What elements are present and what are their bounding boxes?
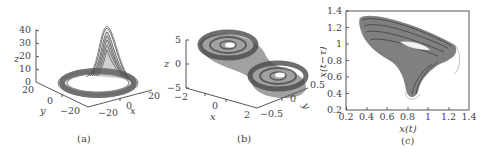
- y-label-a: y: [39, 105, 46, 116]
- caption-b: (b): [237, 133, 251, 144]
- panel-c: 1.4 1.2 1 0.8 0.6 0.4 0.2 0.2 0.4 0.6 0.…: [320, 0, 485, 157]
- svg-text:0.8: 0.8: [327, 55, 342, 66]
- svg-text:0.4: 0.4: [359, 111, 374, 122]
- svg-text:0: 0: [47, 95, 53, 106]
- svg-text:30: 30: [19, 37, 31, 48]
- svg-text:−20: −20: [60, 105, 80, 116]
- svg-text:0.2: 0.2: [338, 111, 353, 122]
- svg-text:20: 20: [148, 90, 160, 101]
- y-ticks-c: 1.4 1.2 1 0.8 0.6 0.4 0.2: [327, 5, 342, 115]
- svg-text:20: 20: [22, 84, 34, 95]
- chart-c: 1.4 1.2 1 0.8 0.6 0.4 0.2 0.2 0.4 0.6 0.…: [320, 0, 485, 157]
- z-ticks-a: 40 30 20 10 0: [19, 24, 31, 87]
- svg-text:40: 40: [19, 24, 31, 35]
- svg-text:0.6: 0.6: [379, 111, 394, 122]
- z-label-a: z: [13, 53, 20, 64]
- z-label-b: z: [163, 58, 170, 69]
- x-label-b: x: [210, 111, 216, 122]
- x-label-c: x(t): [399, 123, 417, 134]
- svg-text:0.8: 0.8: [400, 111, 415, 122]
- svg-text:1: 1: [425, 111, 431, 122]
- svg-text:1.2: 1.2: [441, 111, 456, 122]
- panel-b: 5 0 −5 z −2 0 2 x −0.5 0 0.5 y (b): [160, 0, 325, 157]
- svg-text:1.2: 1.2: [327, 22, 342, 33]
- svg-text:−0.5: −0.5: [260, 108, 283, 119]
- svg-text:2: 2: [244, 109, 250, 120]
- svg-text:0.4: 0.4: [327, 88, 342, 99]
- caption-a: (a): [77, 133, 91, 144]
- x-label-a: x: [130, 105, 136, 116]
- panel-a: 40 30 20 10 0 z 20 0 −20 y −20 0 20 x (a…: [0, 0, 160, 157]
- y-label-b: y: [300, 100, 313, 112]
- svg-text:5: 5: [175, 34, 181, 45]
- x-ticks-c: 0.2 0.4 0.6 0.8 1 1.2 1.4: [338, 111, 476, 122]
- svg-text:1.4: 1.4: [327, 5, 342, 16]
- y-label-c: x(t−τ): [320, 46, 328, 77]
- svg-text:20: 20: [19, 50, 31, 61]
- svg-text:0: 0: [212, 100, 218, 111]
- svg-text:0.6: 0.6: [327, 71, 342, 82]
- svg-text:−20: −20: [98, 107, 118, 118]
- caption-c: (c): [401, 135, 414, 146]
- svg-text:−2: −2: [174, 91, 188, 102]
- svg-text:0: 0: [175, 58, 181, 69]
- svg-text:10: 10: [19, 63, 31, 74]
- svg-text:1: 1: [336, 38, 342, 49]
- svg-text:1.4: 1.4: [461, 111, 476, 122]
- svg-text:0: 0: [290, 93, 296, 104]
